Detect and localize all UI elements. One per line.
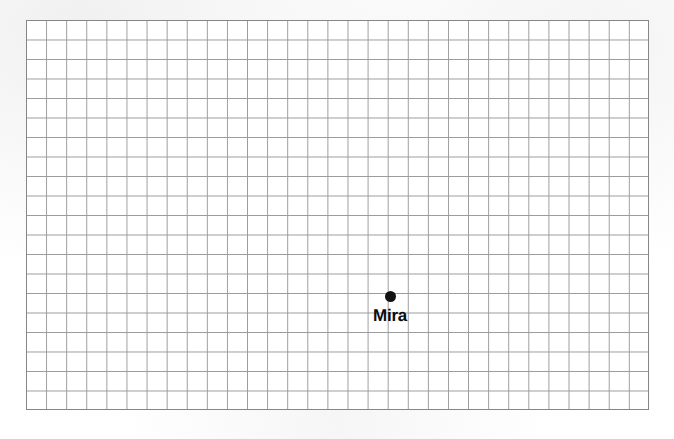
map-marker-dot[interactable] xyxy=(385,291,396,302)
grid-map-page: Mira xyxy=(0,0,674,439)
coordinate-grid xyxy=(26,20,649,410)
map-marker-label: Mira xyxy=(373,306,407,326)
